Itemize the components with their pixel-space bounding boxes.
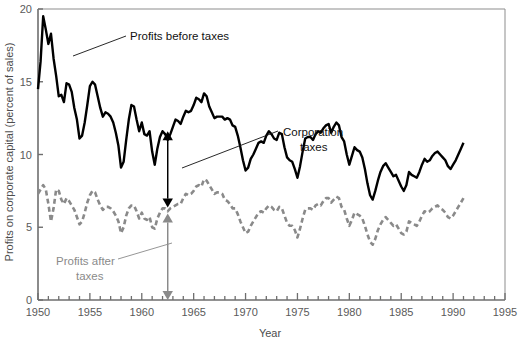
y-tick-label: 20: [20, 3, 32, 15]
x-tick-label: 1965: [181, 306, 205, 318]
profits-after-taxes-label-line1: Profits after: [56, 255, 115, 267]
x-tick-label: 1980: [337, 306, 361, 318]
chart-figure: 1950195519601965197019751980198519901995…: [0, 0, 519, 343]
profits-on-corporate-capital-chart: 1950195519601965197019751980198519901995…: [0, 0, 519, 343]
corporation-taxes-label-line1: Corporation: [283, 126, 343, 138]
x-tick-label: 1950: [26, 306, 50, 318]
x-tick-label: 1960: [130, 306, 154, 318]
y-tick-label: 15: [20, 76, 32, 88]
x-axis-title: Year: [259, 327, 282, 339]
profits-before-taxes-label: Profits before taxes: [130, 30, 229, 42]
profits-after-taxes-label-line2: taxes: [76, 270, 104, 282]
x-tick-label: 1955: [78, 306, 102, 318]
y-tick-label: 5: [26, 221, 32, 233]
x-tick-label: 1975: [285, 306, 309, 318]
x-tick-label: 1970: [233, 306, 257, 318]
y-tick-label: 10: [20, 149, 32, 161]
x-tick-label: 1985: [389, 306, 413, 318]
corporation-taxes-label-line2: taxes: [300, 141, 328, 153]
y-tick-label: 0: [26, 294, 32, 306]
x-tick-label: 1995: [493, 306, 517, 318]
x-tick-label: 1990: [441, 306, 465, 318]
chart-background: [0, 0, 519, 343]
y-axis-title: Profits on corporate capital (percent of…: [3, 43, 15, 262]
